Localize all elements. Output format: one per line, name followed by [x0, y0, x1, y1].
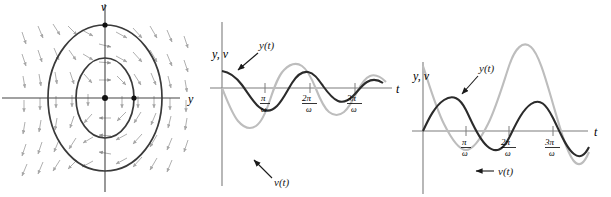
right-tick-2-denominator: ω — [505, 149, 511, 158]
panel-damped-oscillation: y, v t π ω 2π ω 3π ω y(t) v(t) — [196, 0, 406, 197]
right-curve-label-yt: y(t) — [478, 62, 495, 75]
tick-2-numerator: 2π — [302, 93, 312, 103]
right-axis-label-t: t — [594, 125, 598, 139]
middle-tick-label-2: 2π ω — [302, 93, 317, 114]
marked-point-on-y-axis — [131, 95, 136, 100]
right-tick-2-numerator: 2π — [501, 137, 511, 147]
marked-point-on-v-axis — [102, 22, 107, 27]
middle-leader-line-vt — [254, 160, 272, 178]
right-curve-label-vt: v(t) — [498, 165, 514, 178]
tick-3-denominator: ω — [351, 105, 357, 114]
right-tick-label-1: π ω — [461, 137, 471, 158]
tick-2-denominator: ω — [306, 105, 312, 114]
panel-undamped-oscillation: y, v t π ω 2π ω 3π ω y(t) v(t) — [398, 0, 611, 197]
tick-1-denominator: ω — [261, 105, 267, 114]
phase-axis-label-y: y — [187, 92, 194, 106]
middle-axis-label-yv: y, v — [211, 47, 229, 61]
panel-phase-portrait: v y — [0, 0, 204, 197]
tick-3-numerator: 3π — [346, 93, 357, 103]
middle-curve-label-vt: v(t) — [274, 176, 290, 189]
damped-oscillation-svg: y, v t π ω 2π ω 3π ω y(t) v(t) — [196, 0, 406, 197]
right-axis-label-yv: y, v — [412, 69, 430, 83]
middle-leader-line-yt — [238, 53, 258, 70]
right-tick-label-2: 2π ω — [501, 137, 516, 158]
right-tick-1-numerator: π — [462, 137, 467, 147]
undamped-oscillation-svg: y, v t π ω 2π ω 3π ω y(t) v(t) — [398, 0, 611, 197]
middle-curve-label-yt: y(t) — [258, 39, 275, 52]
right-tick-3-numerator: 3π — [544, 137, 555, 147]
right-leader-line-yt — [462, 76, 478, 94]
figure-container: v y y, v t π — [0, 0, 611, 197]
phase-axis-label-v: v — [101, 0, 107, 14]
right-tick-3-denominator: ω — [549, 149, 555, 158]
right-tick-label-3: 3π ω — [544, 137, 560, 158]
middle-tick-label-3: 3π ω — [346, 93, 362, 114]
tick-1-numerator: π — [261, 93, 266, 103]
phase-portrait-svg: v y — [0, 0, 204, 197]
curve-yt-damped — [222, 71, 383, 111]
equilibrium-point — [102, 95, 108, 101]
right-tick-1-denominator: ω — [462, 149, 468, 158]
